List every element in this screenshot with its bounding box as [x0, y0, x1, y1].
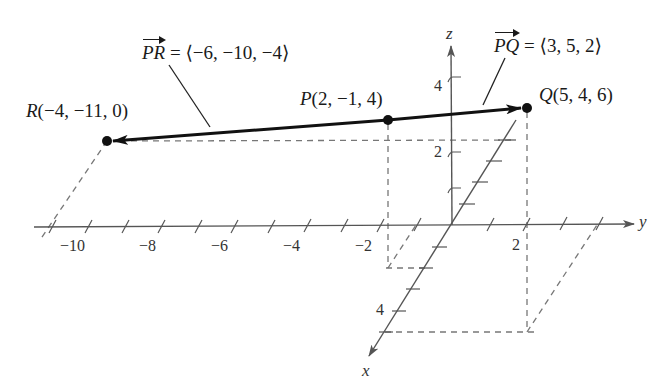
p-base-to-y [388, 225, 416, 268]
point-p-name: P [300, 88, 312, 109]
vector-pq-name: PQ [494, 36, 519, 55]
y-tick-label: −6 [211, 238, 228, 254]
pr-leader-line [169, 65, 210, 127]
point-r [102, 136, 112, 146]
q-base-to-y [527, 225, 597, 332]
dashed-guides [40, 112, 597, 332]
vector-pr-value: = ⟨−6, −10, −4⟩ [170, 42, 289, 63]
y-tick-label: 2 [512, 237, 520, 253]
x-tick-label: 4 [376, 302, 384, 318]
point-q [522, 103, 532, 113]
z-tick-label: 4 [434, 78, 442, 94]
point-q-label: Q(5, 4, 6) [539, 85, 613, 104]
vector-pq-label: PQ = ⟨3, 5, 2⟩ [494, 36, 602, 55]
pq-leader-line [483, 58, 505, 105]
point-r-coords: (−4, −11, 0) [38, 100, 128, 121]
point-q-coords: (5, 4, 6) [553, 84, 613, 105]
y-tick-label: −10 [60, 238, 85, 254]
x-axis-label: x [362, 362, 370, 379]
y-tick-label: −4 [283, 238, 300, 254]
z-tick-label: 2 [434, 144, 442, 160]
diagram-canvas [0, 0, 670, 387]
point-p-label: P(2, −1, 4) [300, 89, 382, 108]
vector-pr-name: PR [142, 43, 165, 62]
z-axis [448, 46, 461, 225]
r-projection-line [40, 141, 107, 240]
z-axis-ticks [448, 77, 461, 193]
r-level-line [120, 140, 515, 141]
vector-pq-arrow [388, 108, 521, 120]
vector-pq-value: = ⟨3, 5, 2⟩ [524, 35, 602, 56]
point-r-name: R [26, 100, 38, 121]
vector-pr-label: PR = ⟨−6, −10, −4⟩ [142, 43, 289, 62]
y-tick-label: −8 [139, 238, 156, 254]
vectors [113, 108, 521, 141]
point-q-name: Q [539, 84, 553, 105]
z-axis-label: z [446, 25, 453, 42]
vector-3d-diagram: −10 −8 −6 −4 −2 2 2 4 4 z y x R(−4, −11,… [0, 0, 670, 387]
y-tick-label: −2 [355, 238, 372, 254]
point-p [383, 115, 393, 125]
x-axis-ticks [379, 140, 516, 332]
y-axis [34, 217, 634, 233]
point-r-label: R(−4, −11, 0) [26, 101, 128, 120]
point-p-coords: (2, −1, 4) [312, 88, 383, 109]
x-axis [369, 120, 516, 356]
vector-pr-arrow [113, 120, 388, 141]
y-axis-label: y [639, 213, 647, 230]
